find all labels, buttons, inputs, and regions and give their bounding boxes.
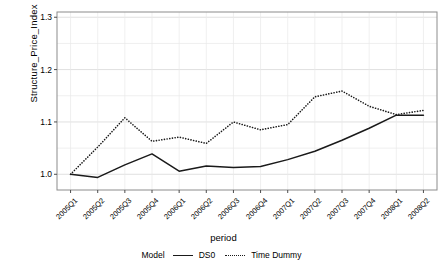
legend-label-time-dummy: Time Dummy (251, 250, 301, 260)
legend-title: Model (142, 250, 165, 260)
legend: Model DS0 Time Dummy (0, 249, 447, 261)
y-tick-label: 1.0 (26, 169, 52, 179)
legend-label-ds0: DS0 (199, 250, 216, 260)
y-tick-label: 1.2 (26, 65, 52, 75)
y-tick-label: 1.3 (26, 12, 52, 22)
x-axis-title: period (0, 232, 447, 243)
chart-container: Structure_Price_Index 1.01.11.21.3 2005Q… (0, 0, 447, 279)
legend-key-ds0 (172, 249, 194, 261)
legend-key-time-dummy (224, 249, 246, 261)
y-tick-label: 1.1 (26, 117, 52, 127)
